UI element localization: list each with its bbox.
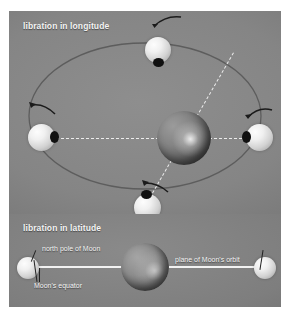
rotation-arrow-top-icon (150, 14, 184, 30)
label-moons-equator: Moon's equator (34, 282, 82, 289)
panel-title-libration-in-longitude: libration in longitude (23, 21, 109, 31)
moon-right-nearside-marker (242, 131, 251, 143)
panel-libration-in-latitude: north pole of Moon plane of Moon's orbit… (9, 214, 281, 307)
libration-diagram-figure: libration in longitude north pole of Moo… (0, 0, 290, 319)
rotation-arrow-left-icon (28, 99, 58, 117)
label-plane-of-moons-orbit: plane of Moon's orbit (175, 256, 240, 263)
orbit-plane-line-right (156, 266, 264, 268)
orbit-ellipse-svg (9, 11, 281, 214)
rotation-arrow-right-icon (243, 103, 275, 121)
label-north-pole-of-moon: north pole of Moon (42, 245, 100, 252)
moon-bottom-nearside-marker (141, 190, 152, 199)
panel-libration-in-longitude: libration in longitude (9, 11, 281, 214)
moon-latitude-right (254, 257, 276, 279)
moon-left-nearside-marker (50, 131, 59, 143)
earth-sphere-latitude (121, 243, 169, 291)
panel-title-libration-in-latitude: libration in latitude (23, 223, 101, 233)
equator-label-leader (39, 268, 40, 282)
earth-sphere-longitude (157, 111, 211, 165)
moon-top-nearside-marker (153, 58, 164, 67)
